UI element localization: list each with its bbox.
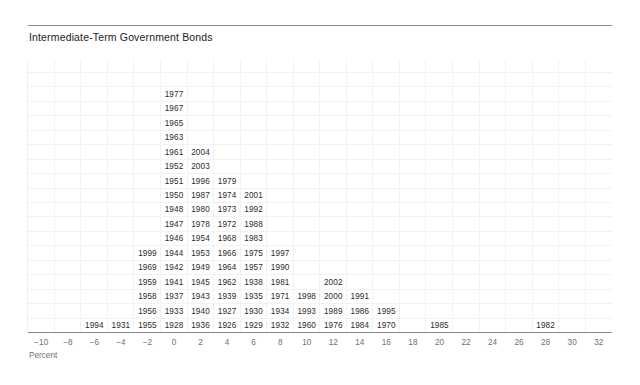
year-label: 1932: [271, 321, 290, 330]
year-label: 1991: [351, 292, 370, 301]
year-label: 1953: [191, 249, 210, 258]
year-label: 2004: [191, 148, 210, 157]
x-axis-tick-label: −4: [116, 337, 125, 348]
year-label: 1963: [165, 133, 184, 142]
year-label: 1995: [377, 307, 396, 316]
year-label: 1966: [218, 249, 237, 258]
year-label: 1973: [218, 205, 237, 214]
year-label: 1979: [218, 177, 237, 186]
year-label: 2002: [324, 278, 343, 287]
year-label: 1977: [165, 90, 184, 99]
x-axis-tick-label: 4: [225, 337, 230, 348]
x-axis-tick-label: 20: [435, 337, 444, 348]
year-label: 1936: [191, 321, 210, 330]
year-label: 1938: [244, 278, 263, 287]
year-label: 1986: [351, 307, 370, 316]
year-label: 1972: [218, 220, 237, 229]
x-axis-tick-label: 30: [568, 337, 577, 348]
year-label: 1988: [244, 220, 263, 229]
year-label: 1974: [218, 191, 237, 200]
year-label: 1926: [218, 321, 237, 330]
year-label: 1969: [138, 263, 157, 272]
year-label: 1949: [191, 263, 210, 272]
year-label: 1928: [165, 321, 184, 330]
year-label: 1945: [191, 278, 210, 287]
year-label: 1954: [191, 234, 210, 243]
year-label: 1930: [244, 307, 263, 316]
year-label: 1970: [377, 321, 396, 330]
page-title: Intermediate-Term Government Bonds: [29, 31, 213, 43]
year-label: 2001: [244, 191, 263, 200]
year-label: 1984: [351, 321, 370, 330]
year-label: 1937: [165, 292, 184, 301]
year-label: 1983: [244, 234, 263, 243]
x-axis-tick-label: 8: [278, 337, 283, 348]
year-label: 2003: [191, 162, 210, 171]
x-axis-line: [28, 332, 612, 333]
x-axis-tick-label: −2: [143, 337, 152, 348]
x-axis-tick-label: 2: [198, 337, 203, 348]
year-label: 1994: [85, 321, 104, 330]
year-label: 1933: [165, 307, 184, 316]
year-label: 1980: [191, 205, 210, 214]
year-label: 1944: [165, 249, 184, 258]
year-label: 1959: [138, 278, 157, 287]
year-label: 1996: [191, 177, 210, 186]
x-axis-tick-label: 22: [461, 337, 470, 348]
year-label: 1978: [191, 220, 210, 229]
year-label: 1955: [138, 321, 157, 330]
year-label: 1929: [244, 321, 263, 330]
x-axis-tick-label: 12: [329, 337, 338, 348]
x-axis-tick-label: 32: [594, 337, 603, 348]
year-label: 1971: [271, 292, 290, 301]
year-label: 1976: [324, 321, 343, 330]
year-label: 1967: [165, 104, 184, 113]
x-axis-tick-label: −6: [90, 337, 99, 348]
x-axis-tick-label: 14: [355, 337, 364, 348]
x-axis-tick-label: −8: [63, 337, 72, 348]
x-axis-tick-label: 18: [408, 337, 417, 348]
x-axis-ticks: −10−8−6−4−202468101214161820222426283032: [0, 337, 640, 351]
year-label: 2000: [324, 292, 343, 301]
year-label: 1961: [165, 148, 184, 157]
year-label: 1950: [165, 191, 184, 200]
year-label: 1946: [165, 234, 184, 243]
year-label: 1958: [138, 292, 157, 301]
plot-area: 1994193119991969195919581956195519771967…: [28, 60, 612, 332]
x-axis-caption: Percent: [29, 351, 57, 360]
x-axis-tick-label: 6: [251, 337, 256, 348]
year-label: 1935: [244, 292, 263, 301]
year-label: 1968: [218, 234, 237, 243]
year-label: 1965: [165, 119, 184, 128]
year-label: 1951: [165, 177, 184, 186]
year-label: 1998: [297, 292, 316, 301]
year-label: 1927: [218, 307, 237, 316]
year-label: 1960: [297, 321, 316, 330]
year-label: 1957: [244, 263, 263, 272]
year-label: 1942: [165, 263, 184, 272]
x-axis-tick-label: 28: [541, 337, 550, 348]
year-label: 1948: [165, 205, 184, 214]
year-label: 1952: [165, 162, 184, 171]
year-label: 1939: [218, 292, 237, 301]
chart-figure: Intermediate-Term Government Bonds 19941…: [0, 0, 640, 385]
year-label: 1934: [271, 307, 290, 316]
year-label: 1943: [191, 292, 210, 301]
x-axis-tick-label: 0: [172, 337, 177, 348]
year-label: 1990: [271, 263, 290, 272]
x-axis-tick-label: −10: [34, 337, 48, 348]
year-label: 1992: [244, 205, 263, 214]
year-label: 1989: [324, 307, 343, 316]
year-label: 1987: [191, 191, 210, 200]
year-label: 1931: [112, 321, 131, 330]
year-label: 1981: [271, 278, 290, 287]
year-label: 1997: [271, 249, 290, 258]
year-label: 1999: [138, 249, 157, 258]
year-label: 1993: [297, 307, 316, 316]
year-label: 1985: [430, 321, 449, 330]
year-label: 1962: [218, 278, 237, 287]
x-axis-tick-label: 24: [488, 337, 497, 348]
year-cells-layer: 1994193119991969195919581956195519771967…: [28, 60, 612, 332]
year-label: 1956: [138, 307, 157, 316]
year-label: 1964: [218, 263, 237, 272]
